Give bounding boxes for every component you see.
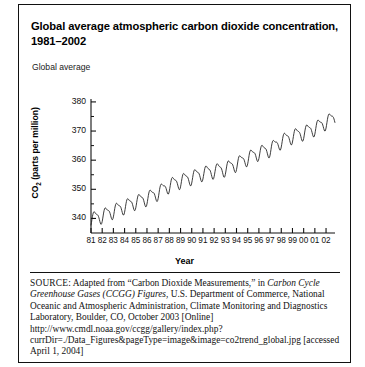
y-tick-label: 370 bbox=[60, 125, 86, 135]
chart-plot-area: CO2 (parts per million) 340350360370380 … bbox=[19, 75, 350, 270]
x-axis-title: Year bbox=[19, 256, 350, 266]
source-divider bbox=[30, 272, 340, 273]
chart-axes bbox=[91, 99, 335, 233]
x-tick-label: 02 bbox=[318, 236, 334, 245]
y-tick-label: 350 bbox=[60, 183, 86, 193]
x-axis-ticks bbox=[91, 228, 326, 233]
y-tick-label: 360 bbox=[60, 154, 86, 164]
y-tick-label: 380 bbox=[60, 96, 86, 106]
source-text-a: Adapted from “Carbon Dioxide Measurement… bbox=[71, 278, 267, 288]
figure-frame: Global average atmospheric carbon dioxid… bbox=[18, 4, 351, 363]
source-text-b: U.S. Department of Commerce, National Oc… bbox=[30, 289, 339, 356]
co2-data-line bbox=[91, 114, 335, 225]
source-kicker: SOURCE: bbox=[30, 278, 71, 288]
axis-note-label: Global average bbox=[32, 62, 90, 72]
page-title: Global average atmospheric carbon dioxid… bbox=[31, 19, 339, 48]
source-note: SOURCE: Adapted from “Carbon Dioxide Mea… bbox=[30, 278, 342, 358]
y-tick-label: 340 bbox=[60, 212, 86, 222]
y-axis-ticks bbox=[91, 102, 96, 219]
